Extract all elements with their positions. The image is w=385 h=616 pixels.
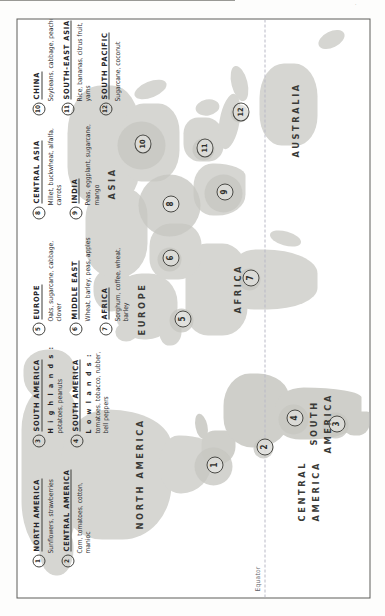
- landmass-philippines: [194, 97, 220, 117]
- legend-item-2[interactable]: 2 CENTRAL AMERICA Corn, tomatoes, cotton…: [61, 459, 92, 567]
- legend-num-3: 3: [32, 434, 45, 447]
- legend-num-2: 2: [61, 554, 74, 567]
- legend-crops-1: Sunflowers, strawberries: [46, 459, 54, 553]
- map-marker-11[interactable]: 11: [196, 138, 213, 157]
- legend-title-6: MIDDLE EAST: [69, 260, 80, 319]
- landmass-madagascar: [268, 227, 303, 249]
- equator-line: [264, 19, 265, 597]
- legend-item-10[interactable]: 10 CHINA Soybeans, cabbage, peaches: [31, 18, 54, 115]
- legend-title-7: AFRICA: [99, 287, 110, 319]
- landmass-new-zealand: [315, 26, 347, 53]
- landmass-caribbean: [192, 412, 209, 440]
- legend-title-11: SOUTH-EAST ASIA: [61, 20, 72, 99]
- legend-item-8[interactable]: 8 CENTRAL ASIA Millet, buckwheat, alfalf…: [31, 111, 62, 219]
- legend-crops-7: Sorghum, coffee, wheat, barley: [113, 227, 129, 321]
- rotated-map-canvas: Equator NORTH AMERICA CENTRAL AMERICA SO…: [0, 0, 385, 616]
- legend-crops-12: Sugarcane, coconut: [113, 18, 121, 101]
- map-frame: Equator NORTH AMERICA CENTRAL AMERICA SO…: [16, 18, 370, 598]
- legend-title-1: NORTH AMERICA: [31, 478, 42, 551]
- legend-item-5[interactable]: 5 EUROPE Oats, sugarcane, cabbage, clove…: [31, 227, 62, 335]
- map-marker-8[interactable]: 8: [162, 195, 179, 212]
- legend-item-4[interactable]: 4 SOUTH AMERICA L o w l a n d s : tomato…: [70, 339, 110, 447]
- map-marker-10[interactable]: 10: [134, 134, 151, 153]
- legend-num-9: 9: [69, 206, 82, 219]
- legend-central-asia: 8 CENTRAL ASIA Millet, buckwheat, alfalf…: [31, 111, 107, 219]
- legend-crops-5: Oats, sugarcane, cabbage, clover: [46, 227, 62, 321]
- equator-label: Equator: [253, 566, 261, 591]
- legend-num-12: 12: [99, 102, 112, 115]
- map-marker-5[interactable]: 5: [174, 310, 191, 327]
- landmass-australia: [259, 63, 317, 145]
- legend-americas: 1 NORTH AMERICA Sunflowers, strawberries…: [31, 459, 99, 567]
- continent-label-central-america-line1: CENTRAL: [295, 461, 306, 522]
- map-marker-2[interactable]: 2: [256, 438, 273, 455]
- legend-crops-11: Rice, bananas, citrus fruit, yams: [75, 18, 91, 101]
- continent-label-north-america: NORTH AMERICA: [133, 418, 144, 529]
- legend-title-2: CENTRAL AMERICA: [61, 469, 72, 551]
- legend-item-1[interactable]: 1 NORTH AMERICA Sunflowers, strawberries: [31, 459, 54, 567]
- map-marker-6[interactable]: 6: [162, 249, 179, 266]
- legend-num-8: 8: [32, 206, 45, 219]
- continent-label-africa: AFRICA: [231, 263, 242, 313]
- legend-title-9: INDIA: [69, 178, 80, 203]
- legend-item-3[interactable]: 3 SOUTH AMERICA H i g h l a n d s : pota…: [31, 339, 63, 447]
- legend-num-6: 6: [69, 322, 82, 335]
- legend-crops-10: Soybeans, cabbage, peaches: [46, 18, 54, 101]
- legend-item-7[interactable]: 7 AFRICA Sorghum, coffee, wheat, barley: [99, 227, 130, 335]
- legend-crops-8: Millet, buckwheat, alfalfa, carrots: [46, 111, 62, 205]
- legend-subtitle-3: H i g h l a n d s :: [46, 339, 54, 433]
- legend-emea: 5 EUROPE Oats, sugarcane, cabbage, clove…: [31, 227, 137, 335]
- map-marker-4[interactable]: 4: [286, 409, 303, 426]
- page-background: ·: [0, 0, 385, 616]
- map-marker-9[interactable]: 9: [216, 183, 233, 200]
- map-marker-1[interactable]: 1: [206, 456, 223, 473]
- legend-title-12: SOUTH PACIFIC: [99, 32, 110, 99]
- map-marker-7[interactable]: 7: [242, 269, 259, 286]
- legend-crops-2: Corn, tomatoes, cotton, manioc: [75, 459, 91, 553]
- legend-east-asia: 10 CHINA Soybeans, cabbage, peaches 11 S…: [31, 18, 128, 115]
- legend-subtitle-4: L o w l a n d s :: [84, 339, 92, 433]
- legend-item-11[interactable]: 11 SOUTH-EAST ASIA Rice, bananas, citrus…: [61, 18, 92, 115]
- landmass-japan: [131, 75, 169, 103]
- legend-item-6[interactable]: 6 MIDDLE EAST Wheat, barley, peas, apple…: [69, 227, 92, 335]
- legend-crops-4: tomatoes, tobacco, rubber, bell peppers: [93, 339, 109, 433]
- continent-label-central-america-line2: AMERICA: [309, 461, 320, 521]
- legend-title-8: CENTRAL ASIA: [31, 140, 42, 203]
- legend-title-5: EUROPE: [31, 284, 42, 319]
- legend-item-12[interactable]: 12 SOUTH PACIFIC Sugarcane, coconut: [99, 18, 122, 115]
- legend-num-1: 1: [32, 554, 45, 567]
- legend-crops-9: Peas, eggplant, sugarcane, mango: [83, 111, 99, 205]
- legend-crops-3: potatoes, peanuts: [55, 339, 63, 433]
- continent-label-australia: AUSTRALIA: [289, 82, 300, 157]
- legend-title-10: CHINA: [31, 71, 42, 99]
- continent-label-south-america-line1: SOUTH: [307, 400, 318, 445]
- legend-south-america: 3 SOUTH AMERICA H i g h l a n d s : pota…: [31, 339, 117, 447]
- legend-num-7: 7: [99, 322, 112, 335]
- legend-num-11: 11: [61, 102, 74, 115]
- legend-item-9[interactable]: 9 INDIA Peas, eggplant, sugarcane, mango: [69, 111, 100, 219]
- legend-num-5: 5: [32, 322, 45, 335]
- legend-num-4: 4: [70, 434, 83, 447]
- legend-num-10: 10: [32, 102, 45, 115]
- map-marker-12[interactable]: 12: [232, 102, 249, 121]
- legend-title-4: SOUTH AMERICA: [70, 359, 81, 431]
- legend-crops-6: Wheat, barley, peas, apples: [83, 227, 91, 321]
- legend-title-3: SOUTH AMERICA: [31, 359, 42, 431]
- map-marker-3[interactable]: 3: [328, 415, 345, 432]
